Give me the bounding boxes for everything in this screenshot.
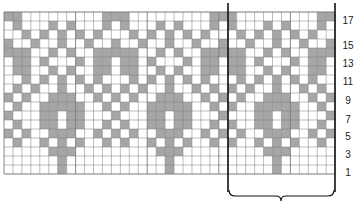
- chart-cell: [156, 93, 165, 102]
- chart-cell: [22, 102, 31, 111]
- chart-cell: [4, 129, 13, 138]
- chart-cell: [40, 138, 49, 147]
- chart-cell: [49, 57, 58, 66]
- chart-cell: [228, 111, 237, 120]
- chart-cell: [326, 84, 335, 93]
- chart-cell: [165, 111, 174, 120]
- chart-cell: [49, 48, 58, 57]
- chart-cell: [273, 156, 282, 165]
- chart-cell: [67, 120, 76, 129]
- chart-cell: [219, 138, 228, 147]
- chart-cell: [255, 75, 264, 84]
- chart-cell: [183, 120, 192, 129]
- chart-cell: [228, 156, 237, 165]
- chart-cell: [94, 129, 103, 138]
- chart-cell: [4, 84, 13, 93]
- chart-cell: [94, 147, 103, 156]
- chart-cell: [290, 129, 299, 138]
- chart-cell: [183, 129, 192, 138]
- chart-cell: [201, 165, 210, 174]
- chart-cell: [219, 165, 228, 174]
- chart-cell: [156, 30, 165, 39]
- row-label-15: 15: [340, 41, 356, 51]
- chart-cell: [76, 165, 85, 174]
- chart-cell: [264, 147, 273, 156]
- chart-cell: [85, 75, 94, 84]
- chart-cell: [165, 165, 174, 174]
- chart-cell: [67, 147, 76, 156]
- chart-cell: [111, 48, 120, 57]
- chart-cell: [326, 12, 335, 21]
- chart-cell: [31, 156, 40, 165]
- chart-cell: [246, 156, 255, 165]
- chart-cell: [219, 156, 228, 165]
- chart-cell: [120, 48, 129, 57]
- chart-cell: [255, 165, 264, 174]
- chart-cell: [58, 21, 67, 30]
- chart-cell: [58, 156, 67, 165]
- chart-cell: [165, 102, 174, 111]
- chart-cell: [40, 156, 49, 165]
- chart-cell: [219, 102, 228, 111]
- chart-cell: [290, 156, 299, 165]
- chart-cell: [111, 57, 120, 66]
- chart-cell: [4, 156, 13, 165]
- chart-cell: [58, 102, 67, 111]
- chart-cell: [58, 93, 67, 102]
- chart-cell: [255, 66, 264, 75]
- chart-cell: [255, 102, 264, 111]
- chart-cell: [129, 165, 138, 174]
- chart-cell: [326, 102, 335, 111]
- chart-cell: [165, 93, 174, 102]
- chart-cell: [246, 66, 255, 75]
- chart-cell: [111, 66, 120, 75]
- chart-cell: [111, 156, 120, 165]
- chart-cell: [4, 138, 13, 147]
- chart-cell: [31, 48, 40, 57]
- chart-cell: [4, 102, 13, 111]
- chart-cell: [183, 57, 192, 66]
- chart-cell: [174, 156, 183, 165]
- chart-cell: [255, 93, 264, 102]
- chart-cell: [273, 12, 282, 21]
- chart-cell: [111, 147, 120, 156]
- chart-cell: [22, 120, 31, 129]
- chart-cell: [255, 129, 264, 138]
- chart-cell: [165, 147, 174, 156]
- chart-cell: [281, 156, 290, 165]
- chart-cell: [246, 75, 255, 84]
- chart-cell: [237, 165, 246, 174]
- chart-cell: [138, 30, 147, 39]
- chart-cell: [76, 21, 85, 30]
- chart-cell: [281, 147, 290, 156]
- chart-cell: [120, 165, 129, 174]
- chart-cell: [317, 111, 326, 120]
- chart-cell: [147, 75, 156, 84]
- chart-cell: [67, 138, 76, 147]
- chart-cell: [58, 75, 67, 84]
- chart-cell: [299, 75, 308, 84]
- chart-cell: [281, 12, 290, 21]
- chart-cell: [67, 102, 76, 111]
- chart-cell: [31, 12, 40, 21]
- chart-cell: [156, 66, 165, 75]
- chart-cell: [192, 84, 201, 93]
- chart-cell: [31, 129, 40, 138]
- chart-cell: [246, 138, 255, 147]
- chart-cell: [308, 21, 317, 30]
- chart-cell: [183, 165, 192, 174]
- chart-cell: [165, 120, 174, 129]
- chart-cell: [210, 75, 219, 84]
- chart-cell: [299, 129, 308, 138]
- chart-cell: [192, 156, 201, 165]
- chart-cell: [210, 147, 219, 156]
- chart-cell: [94, 102, 103, 111]
- chart-cell: [165, 39, 174, 48]
- chart-cell: [264, 39, 273, 48]
- chart-cell: [58, 48, 67, 57]
- chart-cell: [290, 147, 299, 156]
- row-label-11: 11: [340, 77, 356, 87]
- chart-cell: [281, 111, 290, 120]
- chart-cell: [264, 156, 273, 165]
- chart-cell: [165, 12, 174, 21]
